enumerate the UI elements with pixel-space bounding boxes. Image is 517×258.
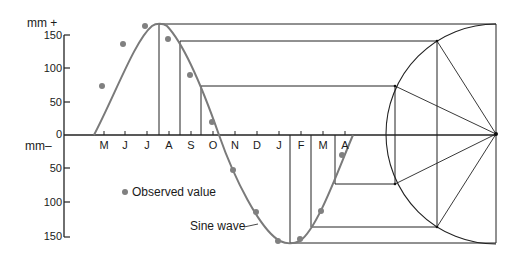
y-tick-150-top: 150 <box>32 30 62 41</box>
sine-wave-diagram <box>0 0 517 258</box>
month-label: A <box>162 140 176 151</box>
y-tick-100-bottom: 100 <box>32 197 62 208</box>
y-unit-top: mm + <box>27 17 57 29</box>
legend-dot <box>122 189 128 195</box>
month-label: S <box>184 140 198 151</box>
legend-sine-label: Sine wave <box>190 220 245 232</box>
y-tick-50-top: 50 <box>32 97 62 108</box>
month-label: J <box>140 140 154 151</box>
month-label: J <box>118 140 132 151</box>
month-label: M <box>97 140 111 151</box>
radius-vectors <box>395 41 496 227</box>
month-label: O <box>206 140 220 151</box>
y-ticks <box>64 35 70 237</box>
observed-dots <box>99 23 345 244</box>
sine-wave-curve <box>94 24 353 244</box>
month-label: M <box>316 140 330 151</box>
y-tick-100-top: 100 <box>32 63 62 74</box>
phasor-semicircle <box>386 24 496 244</box>
month-label: N <box>228 140 242 151</box>
month-label: A <box>338 140 352 151</box>
y-tick-50-bottom: 50 <box>32 163 62 174</box>
sine-wave-leader <box>244 224 258 227</box>
month-label: J <box>272 140 286 151</box>
month-label: F <box>294 140 308 151</box>
phasor-points <box>394 40 498 229</box>
y-unit-bottom: mm– <box>25 140 52 152</box>
legend-observed-label: Observed value <box>132 186 216 198</box>
y-tick-150-bottom: 150 <box>32 231 62 242</box>
projection-lines <box>159 24 496 243</box>
month-label: D <box>250 140 264 151</box>
